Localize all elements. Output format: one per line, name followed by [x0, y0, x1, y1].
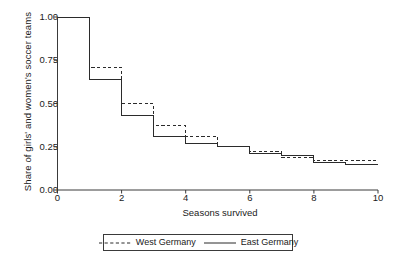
- series-line-east-germany: [58, 17, 379, 164]
- x-tick-label: 10: [366, 193, 390, 203]
- chart-legend: West Germany East Germany: [103, 234, 293, 251]
- x-tick-label: 8: [302, 193, 326, 203]
- legend-swatch-solid-icon: [203, 239, 237, 247]
- x-tick-label: 6: [238, 193, 262, 203]
- x-tick-label: 0: [46, 193, 70, 203]
- x-tick-label: 2: [110, 193, 134, 203]
- legend-item-east-germany: East Germany: [203, 238, 299, 247]
- legend-label-east-germany: East Germany: [241, 238, 299, 247]
- x-axis-title: Seasons survived: [60, 207, 380, 218]
- plot-area: [0, 0, 395, 265]
- legend-label-west-germany: West Germany: [136, 238, 196, 247]
- axis-tickmarks: [54, 17, 378, 194]
- survival-curve-figure: Share of girls' and women's soccer teams…: [0, 0, 395, 265]
- x-tick-label: 4: [174, 193, 198, 203]
- legend-item-west-germany: West Germany: [98, 238, 196, 247]
- axis-lines: [58, 17, 379, 190]
- series-line-west-germany: [58, 17, 379, 161]
- legend-swatch-dashed-icon: [98, 239, 132, 247]
- x-axis-tick-labels: 0246810: [0, 193, 395, 207]
- data-series-group: [58, 17, 379, 164]
